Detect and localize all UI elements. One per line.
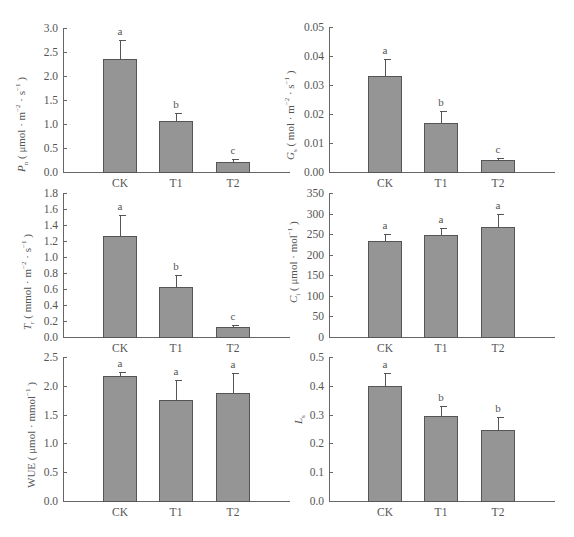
error-bar bbox=[498, 417, 499, 430]
x-category-label: T1 bbox=[421, 177, 461, 189]
y-tick bbox=[63, 148, 67, 149]
significance-letter: c bbox=[223, 310, 243, 322]
error-cap bbox=[497, 158, 504, 159]
error-cap bbox=[384, 373, 391, 374]
y-tick bbox=[329, 234, 333, 235]
y-tick bbox=[63, 241, 67, 242]
error-cap bbox=[175, 113, 182, 114]
bar-t1 bbox=[424, 416, 458, 502]
x-category-label: CK bbox=[365, 342, 405, 354]
ylabel-wue: WUE ( μmol · mmol−1 ) bbox=[24, 382, 37, 488]
significance-letter: a bbox=[488, 199, 508, 211]
error-cap bbox=[119, 215, 126, 216]
error-bar bbox=[176, 113, 177, 121]
x-category-label: T2 bbox=[213, 506, 253, 518]
x-category-label: T1 bbox=[156, 177, 196, 189]
y-tick-label: 3.0 bbox=[18, 22, 58, 34]
error-bar bbox=[233, 373, 234, 393]
error-cap bbox=[497, 417, 504, 418]
bar-t2 bbox=[481, 227, 515, 338]
significance-letter: a bbox=[375, 44, 395, 56]
bar-t1 bbox=[159, 287, 193, 338]
x-category-label: CK bbox=[100, 506, 140, 518]
y-tick bbox=[329, 443, 333, 444]
y-tick bbox=[329, 193, 333, 194]
y-tick bbox=[63, 472, 67, 473]
ylabel-tr: Tr ( mmol · m−2 · s−1 ) bbox=[20, 234, 36, 330]
y-tick bbox=[329, 357, 333, 358]
y-tick bbox=[63, 172, 67, 173]
y-tick bbox=[63, 357, 67, 358]
x-category-label: T2 bbox=[478, 177, 518, 189]
y-tick bbox=[63, 28, 67, 29]
x-category-label: T1 bbox=[421, 342, 461, 354]
error-bar bbox=[176, 275, 177, 286]
y-tick-label: 1.6 bbox=[18, 203, 58, 215]
error-cap bbox=[440, 111, 447, 112]
x-category-label: T1 bbox=[156, 342, 196, 354]
y-tick bbox=[329, 114, 333, 115]
significance-letter: b bbox=[431, 391, 451, 403]
error-bar bbox=[176, 380, 177, 400]
y-tick bbox=[63, 257, 67, 258]
y-tick bbox=[63, 321, 67, 322]
significance-letter: c bbox=[488, 143, 508, 155]
y-tick bbox=[63, 124, 67, 125]
y-tick bbox=[63, 386, 67, 387]
y-tick-label: 0.00 bbox=[284, 166, 324, 178]
y-tick bbox=[63, 415, 67, 416]
error-cap bbox=[384, 59, 391, 60]
bar-ck bbox=[368, 386, 402, 502]
error-cap bbox=[232, 159, 239, 160]
y-tick bbox=[63, 76, 67, 77]
bar-ck bbox=[368, 241, 402, 338]
significance-letter: a bbox=[431, 213, 451, 225]
significance-letter: a bbox=[223, 358, 243, 370]
significance-letter: a bbox=[166, 365, 186, 377]
y-tick bbox=[329, 501, 333, 502]
y-tick-label: 0.0 bbox=[284, 495, 324, 507]
y-axis bbox=[329, 193, 330, 337]
error-cap bbox=[175, 275, 182, 276]
x-category-label: CK bbox=[365, 506, 405, 518]
significance-letter: c bbox=[223, 144, 243, 156]
bar-t2 bbox=[481, 160, 515, 173]
error-cap bbox=[119, 372, 126, 373]
y-tick bbox=[63, 501, 67, 502]
error-bar bbox=[498, 214, 499, 226]
error-cap bbox=[440, 406, 447, 407]
y-tick-label: 0.5 bbox=[284, 351, 324, 363]
y-tick bbox=[63, 337, 67, 338]
error-bar bbox=[120, 215, 121, 237]
y-tick-label: 0.0 bbox=[18, 495, 58, 507]
error-cap bbox=[175, 380, 182, 381]
y-tick bbox=[329, 316, 333, 317]
y-tick bbox=[329, 415, 333, 416]
y-tick-label: 50 bbox=[284, 310, 324, 322]
x-category-label: T1 bbox=[421, 506, 461, 518]
error-bar bbox=[441, 111, 442, 123]
y-tick bbox=[63, 443, 67, 444]
bar-t1 bbox=[159, 121, 193, 173]
y-tick bbox=[63, 193, 67, 194]
x-category-label: T1 bbox=[156, 506, 196, 518]
x-category-label: CK bbox=[100, 342, 140, 354]
error-cap bbox=[384, 234, 391, 235]
x-category-label: CK bbox=[100, 177, 140, 189]
y-axis bbox=[63, 357, 64, 501]
error-cap bbox=[119, 40, 126, 41]
y-tick bbox=[63, 225, 67, 226]
y-tick-label: 1.4 bbox=[18, 219, 58, 231]
y-tick-label: 0.04 bbox=[284, 50, 324, 62]
y-tick bbox=[63, 305, 67, 306]
y-axis bbox=[329, 27, 330, 172]
y-tick-label: 0.4 bbox=[284, 380, 324, 392]
y-tick-label: 2.5 bbox=[18, 351, 58, 363]
bar-t1 bbox=[424, 235, 458, 338]
y-axis bbox=[63, 193, 64, 337]
y-tick-label: 350 bbox=[284, 187, 324, 199]
y-tick bbox=[329, 296, 333, 297]
significance-letter: a bbox=[110, 25, 130, 37]
y-tick bbox=[329, 386, 333, 387]
error-bar bbox=[385, 373, 386, 386]
